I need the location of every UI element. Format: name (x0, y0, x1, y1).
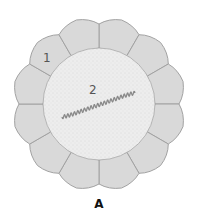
figure-caption: A (0, 197, 198, 211)
label-2: 2 (89, 83, 97, 97)
cell-cross-section-diagram: 1 2 (0, 0, 198, 218)
inner-cavity (43, 48, 155, 160)
label-1: 1 (43, 51, 51, 65)
